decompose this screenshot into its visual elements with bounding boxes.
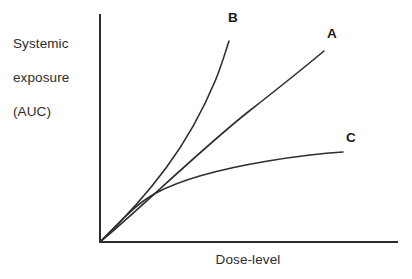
curve-a <box>100 51 324 242</box>
y-axis-label-line-2: exposure <box>13 61 97 95</box>
series-label-b: B <box>228 10 238 25</box>
y-axis-label: Systemic exposure (AUC) <box>13 27 97 129</box>
series-label-a: A <box>327 26 337 41</box>
curve-b <box>100 41 229 242</box>
series-label-c: C <box>346 130 356 145</box>
y-axis-label-line-3: (AUC) <box>13 95 97 129</box>
y-axis-label-line-1: Systemic <box>13 27 97 61</box>
x-axis-label: Dose-level <box>186 252 310 267</box>
chart-figure: Systemic exposure (AUC) Dose-level A B C <box>0 0 412 279</box>
curve-c <box>100 152 343 242</box>
